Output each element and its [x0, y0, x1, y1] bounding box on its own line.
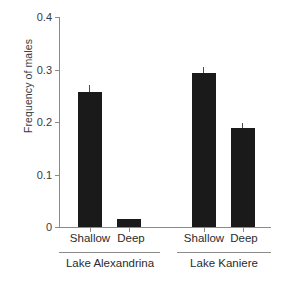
errorbar-kaniere-shallow [203, 67, 204, 73]
plot-area: 0.4 0.3 0.2 0.1 0 [59, 17, 271, 227]
x-axis-line [59, 227, 271, 228]
bar-kaniere-deep [231, 128, 255, 227]
x-label-kaniere-deep: Deep [230, 232, 258, 244]
y-tick-mark [55, 122, 60, 123]
y-tick-label: 0.3 [37, 64, 52, 76]
y-tick-mark [55, 17, 60, 18]
x-label-alexandrina-shallow: Shallow [70, 232, 110, 244]
y-tick-label: 0.4 [37, 11, 52, 23]
y-axis-title: Frequency of males [22, 6, 34, 166]
group-label-kaniere: Lake Kaniere [190, 257, 258, 269]
errorbar-alexandrina-shallow [89, 85, 90, 91]
bar-alexandrina-shallow [78, 92, 102, 227]
y-tick-label: 0.2 [37, 116, 52, 128]
group-rule-alexandrina [59, 252, 160, 253]
errorbar-kaniere-deep [242, 123, 243, 128]
x-label-kaniere-shallow: Shallow [184, 232, 224, 244]
group-label-alexandrina: Lake Alexandrina [66, 257, 154, 269]
y-tick-label: 0 [46, 221, 52, 233]
bar-alexandrina-deep [117, 219, 141, 227]
y-tick-mark [55, 227, 60, 228]
y-tick-label: 0.1 [37, 169, 52, 181]
y-tick-mark [55, 175, 60, 176]
y-tick-mark [55, 70, 60, 71]
x-label-alexandrina-deep: Deep [117, 232, 145, 244]
group-rule-kaniere [177, 252, 271, 253]
bar-kaniere-shallow [192, 73, 216, 227]
bar-chart-figure: Frequency of males 0.4 0.3 0.2 0.1 0 [0, 0, 281, 287]
